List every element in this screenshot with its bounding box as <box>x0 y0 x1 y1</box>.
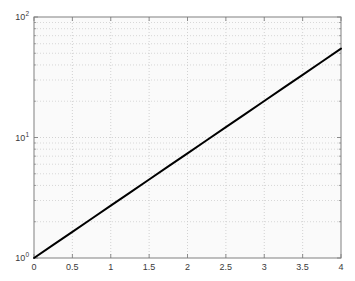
y-tick-label: 100 <box>4 254 29 263</box>
y-tick-exponent: 2 <box>25 10 29 17</box>
y-tick-mantissa: 10 <box>15 132 25 142</box>
y-tick-exponent: 1 <box>25 130 29 137</box>
x-tick-label: 1.5 <box>143 263 156 272</box>
plot-svg <box>0 0 355 281</box>
x-tick-label: 3.5 <box>296 263 309 272</box>
y-tick-mantissa: 10 <box>15 12 25 22</box>
x-tick-label: 1 <box>108 263 113 272</box>
y-tick-mantissa: 10 <box>15 253 25 263</box>
x-tick-label: 4 <box>338 263 343 272</box>
x-tick-label: 2.5 <box>220 263 233 272</box>
y-tick-label: 101 <box>4 133 29 142</box>
x-tick-label: 0 <box>31 263 36 272</box>
x-tick-label: 2 <box>185 263 190 272</box>
x-tick-label: 3 <box>262 263 267 272</box>
figure-canvas: 00.511.522.533.54 100101102 <box>0 0 355 281</box>
x-tick-label: 0.5 <box>66 263 79 272</box>
y-tick-label: 102 <box>4 13 29 22</box>
y-tick-exponent: 0 <box>25 251 29 258</box>
